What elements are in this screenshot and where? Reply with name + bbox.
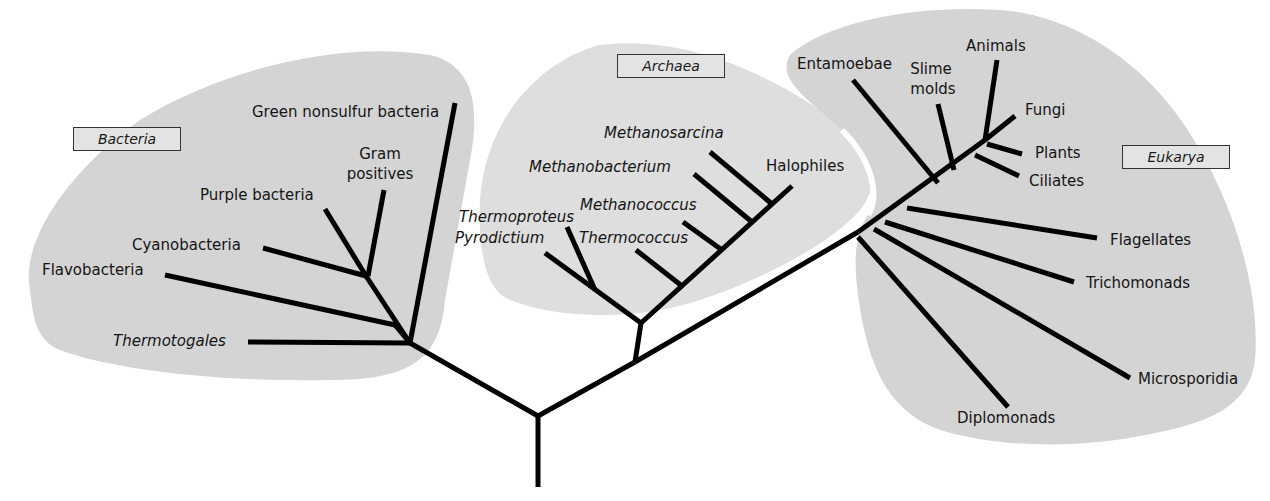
taxon-gram: Gram [355,146,405,163]
taxon-thermococcus: Thermococcus [579,230,688,247]
taxon-trichomonads: Trichomonads [1086,275,1190,292]
taxon-plants: Plants [1035,145,1081,162]
taxon-thermotogales: Thermotogales [113,333,226,350]
taxon-microsporidia: Microsporidia [1138,371,1238,388]
taxon-entamoebae: Entamoebae [797,56,892,73]
taxon-slime: Slime [906,61,956,78]
bacteria-region [29,51,475,380]
taxon-methanobacterium: Methanobacterium [529,159,671,176]
domain-label-eukarya: Eukarya [1122,145,1230,169]
taxon-positives: positives [342,166,418,183]
taxon-flagellates: Flagellates [1110,232,1191,249]
taxon-halophiles: Halophiles [766,158,844,175]
domain-label-archaea: Archaea [617,54,725,78]
taxon-diplomonads: Diplomonads [957,410,1055,427]
taxon-green-nonsulfur-bacteria: Green nonsulfur bacteria [252,104,439,121]
taxon-ciliates: Ciliates [1029,173,1084,190]
taxon-purple-bacteria: Purple bacteria [200,187,314,204]
taxon-cyanobacteria: Cyanobacteria [132,237,241,254]
taxon-molds: molds [906,81,960,98]
taxon-animals: Animals [966,38,1026,55]
taxon-methanococcus: Methanococcus [580,197,697,214]
taxon-pyrodictium: Pyrodictium [455,230,544,247]
taxon-thermoproteus: Thermoproteus [459,209,574,226]
taxon-flavobacteria: Flavobacteria [42,262,144,279]
taxon-fungi: Fungi [1025,102,1066,119]
domain-label-bacteria: Bacteria [73,127,181,151]
taxon-methanosarcina: Methanosarcina [604,125,724,142]
